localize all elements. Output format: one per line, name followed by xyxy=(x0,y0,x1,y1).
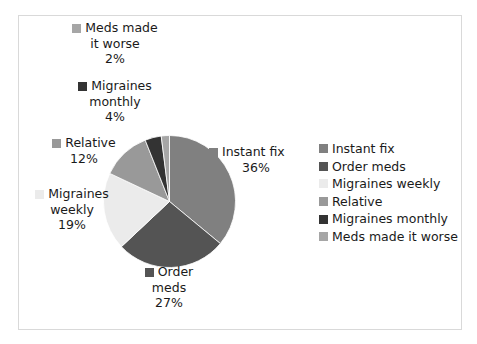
pie-label-relative: Relative 12% xyxy=(29,135,139,166)
pie-label-migraines-weekly: Migraines weekly 19% xyxy=(17,186,127,233)
pie-label-text-line2: monthly xyxy=(89,94,140,109)
pie-label-text-line1: Meds made xyxy=(85,20,157,35)
pie-label-percent: 12% xyxy=(29,151,139,167)
pie-label-instant-fix: Instant fix 36% xyxy=(209,144,329,175)
pie-label-swatch-migraines-monthly xyxy=(78,82,87,91)
pie-label-text-line1: Migraines xyxy=(91,78,152,93)
pie-label-percent: 4% xyxy=(55,109,175,125)
legend-item[interactable]: Migraines weekly xyxy=(319,175,469,193)
legend-swatch xyxy=(319,162,328,171)
pie-label-percent: 19% xyxy=(17,217,127,233)
pie-label-swatch-order-meds xyxy=(145,268,154,277)
legend-item[interactable]: Order meds xyxy=(319,158,469,176)
legend-label: Meds made it worse xyxy=(332,228,458,246)
pie-label-migraines-monthly: Migraines monthly 4% xyxy=(55,78,175,125)
legend-swatch xyxy=(319,197,328,206)
pie-label-text-line1: Relative xyxy=(65,135,115,150)
legend-swatch xyxy=(319,215,328,224)
legend-swatch xyxy=(319,179,328,188)
legend-label: Instant fix xyxy=(332,140,395,158)
pie-label-text-line2: meds xyxy=(152,280,186,295)
legend-item[interactable]: Meds made it worse xyxy=(319,228,469,246)
legend-label: Migraines monthly xyxy=(332,210,448,228)
pie-label-percent: 2% xyxy=(55,51,175,67)
legend-item[interactable]: Migraines monthly xyxy=(319,210,469,228)
pie-label-order-meds: Order meds 27% xyxy=(114,264,224,311)
pie-label-text-line1: Instant fix xyxy=(222,144,285,159)
legend-label: Migraines weekly xyxy=(332,175,440,193)
pie-label-text-line1: Order xyxy=(158,264,194,279)
legend-label: Relative xyxy=(332,193,382,211)
legend-item[interactable]: Instant fix xyxy=(319,140,469,158)
pie-label-text-line1: Migraines xyxy=(48,186,109,201)
legend-item[interactable]: Relative xyxy=(319,193,469,211)
pie-label-text-line2: it worse xyxy=(90,36,140,51)
legend-label: Order meds xyxy=(332,158,406,176)
pie-label-swatch-meds-made-it-worse xyxy=(72,24,81,33)
pie-label-percent: 27% xyxy=(114,295,224,311)
pie-label-swatch-migraines-weekly xyxy=(35,190,44,199)
pie-label-percent: 36% xyxy=(209,160,303,176)
chart-legend: Instant fixOrder medsMigraines weeklyRel… xyxy=(319,140,469,246)
legend-swatch xyxy=(319,232,328,241)
chart-frame: Meds made it worse 2% Migraines monthly … xyxy=(18,15,462,330)
pie-label-swatch-instant-fix xyxy=(209,148,218,157)
pie-label-swatch-relative xyxy=(52,139,61,148)
pie-label-text-line2: weekly xyxy=(50,202,94,217)
pie-label-meds-made-it-worse: Meds made it worse 2% xyxy=(55,20,175,67)
legend-swatch xyxy=(319,144,328,153)
